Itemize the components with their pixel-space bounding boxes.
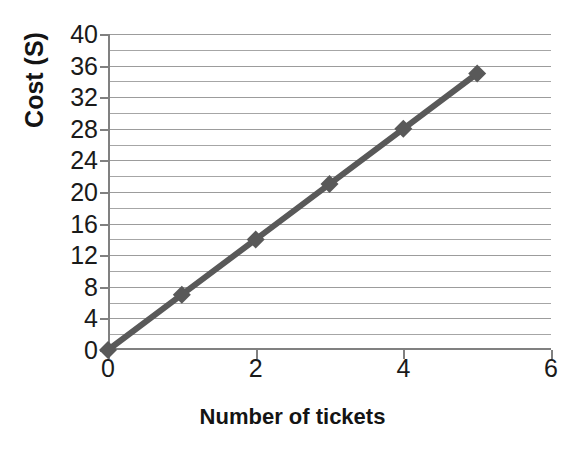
x-tick-label: 6 <box>521 356 581 381</box>
x-tick-label: 2 <box>226 356 286 381</box>
y-tick-label: 12 <box>48 243 98 268</box>
x-axis-title: Number of tickets <box>0 404 585 430</box>
series-line <box>108 74 477 351</box>
y-tick-label: 4 <box>48 306 98 331</box>
y-axis-tick-labels: 0481216202428323640 <box>48 18 98 350</box>
line-chart: Cost (S) 0481216202428323640 0246 Number… <box>0 0 585 449</box>
y-tick-label: 8 <box>48 274 98 299</box>
y-tick-label: 40 <box>48 22 98 47</box>
y-tick-label: 16 <box>48 211 98 236</box>
y-tick-label: 36 <box>48 53 98 78</box>
series-layer <box>108 34 551 350</box>
y-tick-label: 24 <box>48 148 98 173</box>
x-axis-tick-labels: 0246 <box>108 356 551 396</box>
x-tick-label: 0 <box>78 356 138 381</box>
y-tick-label: 20 <box>48 180 98 205</box>
x-tick-label: 4 <box>373 356 433 381</box>
y-tick-label: 28 <box>48 116 98 141</box>
plot-area <box>108 34 551 350</box>
y-tick-label: 32 <box>48 85 98 110</box>
